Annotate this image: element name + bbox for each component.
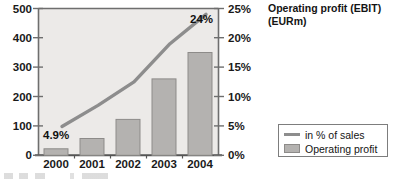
bar-2003 bbox=[152, 79, 176, 155]
x-axis-label-2002: 2002 bbox=[108, 158, 148, 171]
left-axis-label-300: 300 bbox=[2, 61, 32, 73]
chart-title-line-2: (EURm) bbox=[268, 15, 399, 28]
chart-title: Operating profit (EBIT) (EURm) bbox=[268, 2, 399, 27]
x-axis-label-2004: 2004 bbox=[180, 158, 220, 171]
annotation-24-percent: 24% bbox=[190, 13, 213, 25]
right-axis-label-10pct: 10% bbox=[228, 91, 258, 103]
bar-2001 bbox=[80, 139, 104, 156]
left-axis-label-500: 500 bbox=[2, 3, 32, 15]
operating-profit-chart: 500 400 300 200 100 0 25% 20% 15% 10% 5%… bbox=[0, 0, 399, 179]
legend-line-swatch-icon bbox=[284, 133, 300, 136]
legend-item-percent-of-sales: in % of sales bbox=[284, 128, 383, 141]
bar-2000 bbox=[44, 149, 68, 156]
x-axis-label-2000: 2000 bbox=[36, 158, 76, 171]
legend-bar-swatch-icon bbox=[284, 144, 300, 153]
annotation-4-9-percent: 4.9% bbox=[43, 129, 69, 141]
left-axis-label-0: 0 bbox=[2, 149, 32, 161]
legend-label-operating-profit: Operating profit bbox=[305, 143, 377, 155]
right-axis-label-5pct: 5% bbox=[228, 120, 258, 132]
bar-2002 bbox=[116, 119, 140, 155]
legend-item-operating-profit: Operating profit bbox=[284, 142, 383, 155]
right-axis-label-20pct: 20% bbox=[228, 32, 258, 44]
left-axis-label-200: 200 bbox=[2, 91, 32, 103]
chart-legend: in % of sales Operating profit bbox=[278, 124, 388, 157]
right-axis-label-25pct: 25% bbox=[228, 3, 258, 15]
legend-label-percent-of-sales: in % of sales bbox=[305, 129, 365, 141]
x-axis-label-2001: 2001 bbox=[72, 158, 112, 171]
right-axis-label-15pct: 15% bbox=[228, 61, 258, 73]
chart-title-line-1: Operating profit (EBIT) bbox=[268, 2, 399, 15]
bar-2004 bbox=[188, 53, 212, 156]
right-axis-label-0pct: 0% bbox=[228, 149, 258, 161]
x-axis-label-2003: 2003 bbox=[144, 158, 184, 171]
left-axis-label-400: 400 bbox=[2, 32, 32, 44]
clipped-caption-artifact bbox=[4, 173, 124, 179]
left-axis-label-100: 100 bbox=[2, 120, 32, 132]
